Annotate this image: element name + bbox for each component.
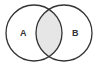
set-a-label: A (20, 28, 27, 38)
set-b-label: B (72, 28, 79, 38)
venn-diagram: A B (0, 0, 98, 67)
